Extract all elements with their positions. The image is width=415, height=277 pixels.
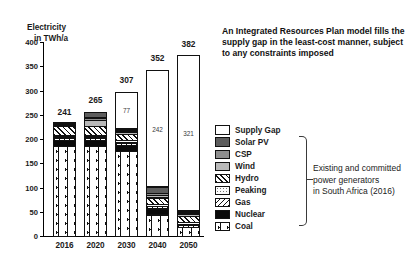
bar-segment-csp [84, 118, 107, 121]
bar-segment-hydro [146, 198, 169, 205]
legend-item-coal[interactable]: Coal [215, 221, 281, 233]
bar-segment-hydro [115, 134, 138, 141]
y-tick-label: 250 [25, 111, 38, 118]
bar-2016[interactable] [53, 122, 76, 236]
y-tick-label: 0 [34, 233, 38, 240]
bar-segment-gap: 242 [146, 70, 169, 187]
bar-segment-nuclear [84, 140, 107, 147]
legend-item-csp[interactable]: CSP [215, 148, 281, 160]
bar-segment-hydro [177, 216, 200, 223]
y-tick [40, 212, 43, 213]
legend-item-nuclear[interactable]: Nuclear [215, 209, 281, 221]
bar-segment-hydro [53, 126, 76, 136]
bar-segment-nuclear [146, 209, 169, 216]
plot-area: 0501001502002503003504002412016265202030… [43, 42, 204, 237]
x-tick-label-2016: 2016 [49, 241, 81, 250]
y-tick [40, 236, 43, 237]
legend-swatch-solar [215, 137, 230, 146]
y-tick-label: 100 [25, 184, 38, 191]
bar-segment-solar [115, 129, 138, 131]
bar-segment-gap: 321 [177, 55, 200, 211]
legend-label: Peaking [235, 186, 266, 195]
bar-segment-coal [53, 146, 76, 236]
chart-figure: Electricity in TWh/a 0501001502002503003… [0, 0, 415, 277]
bar-segment-coal [177, 227, 200, 237]
legend-swatch-nuclear [215, 210, 230, 219]
legend-label: Hydro [235, 174, 259, 183]
y-tick [40, 66, 43, 67]
bar-2030[interactable]: 77 [115, 92, 138, 236]
legend-item-peaking[interactable]: Peaking [215, 184, 281, 196]
bar-segment-solar [53, 122, 76, 124]
bar-total-label: 352 [151, 53, 165, 63]
y-tick [40, 139, 43, 140]
bar-segment-csp [53, 124, 76, 126]
side-note-line3: in South Africa (2016) [313, 186, 415, 198]
bar-segment-coal [146, 215, 169, 237]
legend-label: Wind [235, 162, 255, 171]
legend-swatch-gas [215, 198, 230, 207]
y-tick-label: 400 [25, 39, 38, 46]
y-tick-label: 300 [25, 87, 38, 94]
legend-swatch-peaking [215, 186, 230, 195]
bar-total-label: 382 [182, 39, 196, 49]
y-tick-label: 350 [25, 63, 38, 70]
legend-swatch-csp [215, 150, 230, 159]
legend-item-solar[interactable]: Solar PV [215, 136, 281, 148]
y-tick [40, 115, 43, 116]
bar-total-label: 241 [58, 107, 72, 117]
legend-item-wind[interactable]: Wind [215, 160, 281, 172]
x-tick-label-2040: 2040 [142, 241, 174, 250]
y-tick [40, 188, 43, 189]
legend-label: Gas [235, 198, 250, 207]
annotation-text: An Integrated Resources Plan model fills… [222, 26, 412, 60]
bar-segment-solar [177, 211, 200, 213]
y-tick-label: 150 [25, 160, 38, 167]
y-tick-label: 50 [30, 208, 38, 215]
bar-segment-nuclear [115, 145, 138, 152]
y-axis-line [43, 42, 44, 237]
side-note-line1: Existing and committed [313, 163, 415, 175]
bar-segment-wind [84, 120, 107, 127]
bar-2020[interactable] [84, 112, 107, 236]
legend-item-gas[interactable]: Gas [215, 197, 281, 209]
y-tick-label: 200 [25, 136, 38, 143]
legend-brace-stem [306, 179, 313, 180]
supply-gap-value: 321 [183, 129, 194, 136]
bar-segment-gap: 77 [115, 92, 138, 129]
bar-segment-coal [84, 146, 107, 236]
y-tick [40, 163, 43, 164]
legend-label: Supply Gap [235, 126, 281, 135]
legend-swatch-wind [215, 162, 230, 171]
x-tick-label-2050: 2050 [173, 241, 205, 250]
legend-label: CSP [235, 150, 252, 159]
legend-label: Solar PV [235, 138, 269, 147]
legend-swatch-coal [215, 222, 230, 231]
y-tick [40, 91, 43, 92]
bar-segment-nuclear [53, 140, 76, 147]
side-note-line2: power generators [313, 175, 415, 187]
legend-swatch-hydro [215, 174, 230, 183]
side-note: Existing and committed power generators … [313, 163, 415, 198]
y-axis-title-line1: Electricity [27, 23, 66, 32]
legend-item-hydro[interactable]: Hydro [215, 172, 281, 184]
y-tick [40, 42, 43, 43]
bar-segment-solar [146, 187, 169, 193]
supply-gap-value: 77 [123, 107, 130, 114]
legend: Supply GapSolar PVCSPWindHydroPeakingGas… [215, 124, 281, 233]
legend-label: Coal [235, 222, 253, 231]
supply-gap-value: 242 [152, 125, 163, 132]
legend-brace [299, 136, 307, 226]
x-tick-label-2030: 2030 [111, 241, 143, 250]
x-tick-label-2020: 2020 [80, 241, 112, 250]
legend-swatch-gap [215, 125, 230, 134]
bar-total-label: 265 [89, 95, 103, 105]
bar-segment-solar [84, 112, 107, 118]
bar-total-label: 307 [120, 75, 134, 85]
bar-2040[interactable]: 242 [146, 70, 169, 236]
bar-2050[interactable]: 321 [177, 55, 200, 236]
legend-label: Nuclear [235, 210, 265, 219]
legend-item-gap[interactable]: Supply Gap [215, 124, 281, 136]
bar-segment-hydro [84, 126, 107, 136]
bar-segment-coal [115, 151, 138, 236]
